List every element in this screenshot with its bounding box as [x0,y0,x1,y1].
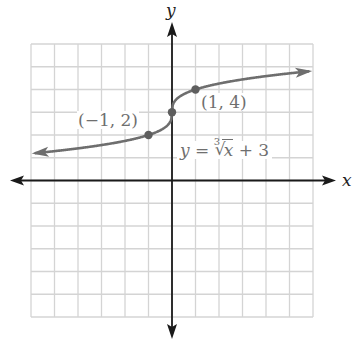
cube-root: 3 √ x [215,141,234,159]
radical-icon: √ [215,140,226,158]
point-label-neg1-2: (−1, 2) [77,111,139,129]
equation-label: y = 3 √ x + 3 [177,141,272,159]
equation-lhs: y [180,140,190,160]
x-axis-label: x [342,171,352,189]
equation-equals: = [195,140,209,160]
point-label-1-4: (1, 4) [200,93,248,111]
axes [10,22,336,339]
y-axis-label: y [166,1,176,19]
equation-rest: + 3 [239,140,269,160]
